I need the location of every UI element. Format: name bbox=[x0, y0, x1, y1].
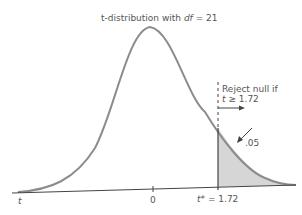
title-df-value: = 21 bbox=[193, 13, 218, 23]
x-axis bbox=[12, 185, 296, 193]
axis-t-label: t bbox=[18, 196, 22, 206]
title-prefix: t-distribution with bbox=[101, 13, 184, 23]
tstar-value: = 1.72 bbox=[205, 194, 238, 204]
reject-rule-label: Reject null if t ≥ 1.72 bbox=[222, 84, 278, 104]
title-df: df bbox=[184, 13, 193, 23]
reject-threshold: ≥ 1.72 bbox=[226, 94, 259, 104]
chart-title: t-distribution with df = 21 bbox=[101, 13, 218, 23]
area-pointer-arrowhead-icon bbox=[237, 136, 243, 143]
rejection-region-shade bbox=[218, 128, 296, 187]
tail-area-label: .05 bbox=[245, 138, 259, 148]
density-curve bbox=[18, 27, 296, 192]
t-distribution-diagram bbox=[0, 0, 302, 215]
reject-line1: Reject null if bbox=[222, 84, 278, 94]
reject-arrowhead-icon bbox=[239, 106, 245, 111]
tstar-var: t* bbox=[197, 194, 205, 204]
critical-value-label: t* = 1.72 bbox=[197, 194, 238, 204]
axis-zero-label: 0 bbox=[150, 195, 156, 205]
